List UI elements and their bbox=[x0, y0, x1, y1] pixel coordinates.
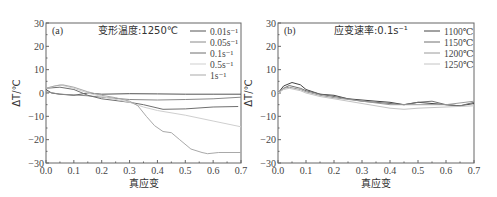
series-line bbox=[46, 92, 241, 100]
x-tick-label: 0.5 bbox=[412, 165, 425, 176]
legend-label: 0.5s⁻¹ bbox=[210, 60, 234, 70]
y-tick-label: 20 bbox=[34, 41, 44, 52]
y-tick-label: 0 bbox=[39, 88, 44, 99]
y-tick-label: 10 bbox=[266, 64, 276, 75]
legend-label: 0.05s⁻¹ bbox=[210, 38, 238, 48]
legend-label: 1150℃ bbox=[444, 38, 474, 48]
y-tick-label: −30 bbox=[28, 158, 44, 169]
series-line bbox=[46, 87, 238, 109]
x-tick-label: 0.7 bbox=[235, 165, 248, 176]
chart-panel-b: 0.00.10.20.30.40.50.60.73020100−10−20−30… bbox=[243, 18, 480, 190]
x-tick-label: 0.4 bbox=[384, 165, 397, 176]
series-line bbox=[46, 85, 241, 127]
x-tick-label: 0.2 bbox=[95, 165, 108, 176]
x-axis-label: 真应变 bbox=[129, 177, 159, 189]
y-tick-label: −30 bbox=[260, 158, 276, 169]
x-tick-label: 0.6 bbox=[207, 165, 220, 176]
chart-canvas: 0.00.10.20.30.40.50.60.73020100−10−20−30… bbox=[0, 0, 497, 197]
y-tick-label: −20 bbox=[28, 134, 44, 145]
x-tick-label: 0.6 bbox=[440, 165, 453, 176]
legend-label: 0.1s⁻¹ bbox=[210, 49, 234, 59]
legend-label: 0.01s⁻¹ bbox=[210, 27, 238, 37]
x-tick-label: 0.1 bbox=[68, 165, 81, 176]
y-tick-label: 10 bbox=[34, 64, 44, 75]
y-tick-label: 30 bbox=[266, 18, 276, 29]
legend-label: 1s⁻¹ bbox=[210, 71, 226, 81]
chart-panel-a: 0.00.10.20.30.40.50.60.73020100−10−20−30… bbox=[11, 18, 247, 190]
panel-label: (b) bbox=[284, 25, 296, 37]
panel-label: (a) bbox=[52, 25, 63, 37]
x-axis-label: 真应变 bbox=[361, 177, 391, 189]
legend-label: 1200℃ bbox=[444, 49, 474, 59]
x-tick-label: 0.5 bbox=[179, 165, 192, 176]
y-tick-label: −10 bbox=[28, 111, 44, 122]
x-tick-label: 0.3 bbox=[356, 165, 369, 176]
x-tick-label: 0.2 bbox=[328, 165, 341, 176]
y-tick-label: −20 bbox=[260, 134, 276, 145]
y-tick-label: 20 bbox=[266, 41, 276, 52]
legend-label: 1100℃ bbox=[444, 27, 474, 37]
y-tick-label: 30 bbox=[34, 18, 44, 29]
legend-label: 1250℃ bbox=[444, 60, 474, 70]
condition-label: 应变速率:0.1s⁻¹ bbox=[334, 24, 408, 36]
y-tick-label: −10 bbox=[260, 111, 276, 122]
x-tick-label: 0.4 bbox=[151, 165, 164, 176]
y-tick-label: 0 bbox=[271, 88, 276, 99]
y-axis-label: ΔT/℃ bbox=[243, 79, 254, 107]
x-tick-label: 0.3 bbox=[123, 165, 136, 176]
condition-label: 变形温度:1250℃ bbox=[98, 24, 178, 36]
x-tick-label: 0.1 bbox=[300, 165, 313, 176]
x-tick-label: 0.7 bbox=[468, 165, 481, 176]
y-axis-label: ΔT/℃ bbox=[11, 79, 22, 107]
